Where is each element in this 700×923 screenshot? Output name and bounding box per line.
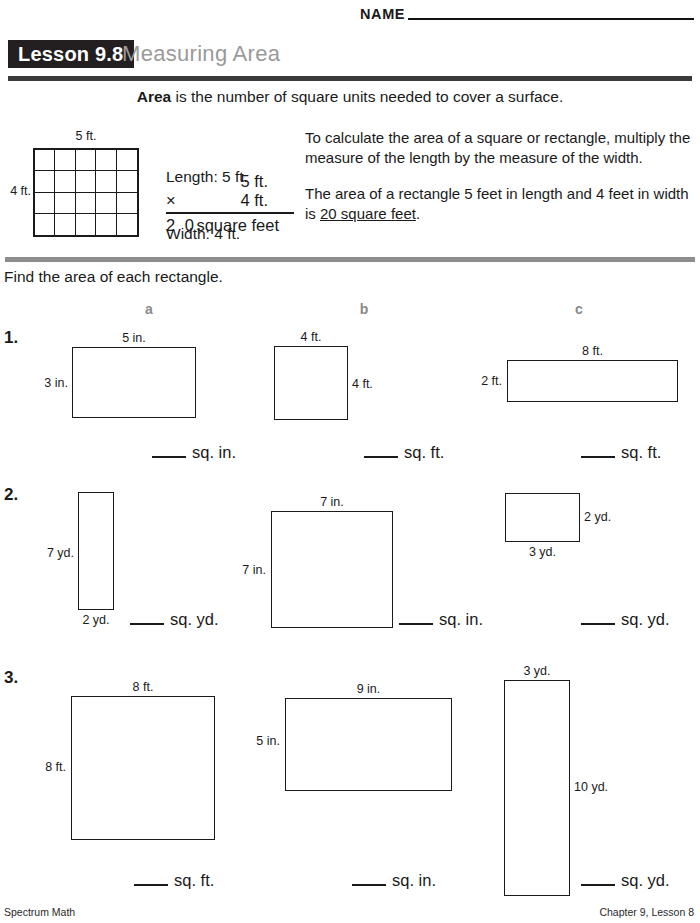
area-definition: Area is the number of square units neede… (0, 88, 700, 106)
answer-unit-3b: sq. in. (392, 871, 436, 890)
explanation-2-answer: 20 square feet (320, 205, 416, 222)
figure-2c-right-label: 2 yd. (584, 510, 642, 524)
problem-number-1: 1. (4, 328, 18, 348)
name-row: NAME (360, 2, 694, 22)
grid-cell (96, 214, 116, 235)
column-header-b: b (349, 301, 379, 317)
grid-cell (96, 193, 116, 214)
section-divider (5, 257, 695, 262)
figure-3c-right-label: 10 yd. (574, 780, 634, 794)
explanation-paragraph-2: The area of a rectangle 5 feet in length… (305, 184, 700, 223)
figure-2c-rectangle (505, 493, 580, 542)
product-number: 2 0 (166, 216, 196, 234)
title-divider (8, 76, 692, 81)
answer-1b: sq. ft. (364, 443, 444, 462)
grid-cell (55, 214, 75, 235)
figure-3a-rectangle (71, 696, 215, 840)
lesson-badge: Lesson 9.8 (8, 40, 134, 68)
product-row: 2 0square feet (166, 214, 294, 235)
column-header-c: c (564, 301, 594, 317)
answer-blank-2b[interactable] (399, 610, 433, 625)
answer-3b: sq. in. (352, 871, 436, 890)
answer-unit-2b: sq. in. (439, 610, 483, 629)
example-block: 5 ft. 4 ft. Length: 5 ft. Width: 4 ft. 5… (0, 126, 700, 246)
answer-1c: sq. ft. (581, 443, 661, 462)
figure-2a-rectangle (78, 492, 114, 610)
answer-blank-3c[interactable] (581, 871, 615, 886)
figure-2b-left-label: 7 in. (208, 563, 266, 577)
problem-number-3: 3. (4, 668, 18, 688)
answer-unit-1c: sq. ft. (621, 443, 661, 462)
figure-1a-rectangle (72, 347, 196, 418)
grid-cell (35, 214, 55, 235)
problem-number-2: 2. (4, 485, 18, 505)
answer-1a: sq. in. (152, 443, 236, 462)
example-multiplication: 5 ft. × 4 ft. 2 0square feet (166, 172, 294, 235)
footer-right: Chapter 9, Lesson 8 (599, 906, 694, 918)
name-label: NAME (360, 7, 405, 22)
answer-3c: sq. yd. (581, 871, 670, 890)
answer-unit-2a: sq. yd. (170, 610, 219, 629)
definition-term: Area (137, 88, 171, 105)
answer-blank-1b[interactable] (364, 443, 398, 458)
answer-2c: sq. yd. (581, 610, 670, 629)
grid-cell (35, 193, 55, 214)
definition-text: is the number of square units needed to … (171, 88, 563, 105)
explanation-2-post: . (416, 205, 420, 222)
grid-cell (117, 150, 137, 171)
figure-3c-rectangle (504, 680, 570, 896)
grid-cell (117, 214, 137, 235)
figure-3c-top-label: 3 yd. (504, 664, 570, 678)
figure-3b-left-label: 5 in. (222, 734, 280, 748)
figure-2a-left-label: 7 yd. (14, 546, 74, 560)
answer-blank-1c[interactable] (581, 443, 615, 458)
example-grid-left-label: 4 ft. (1, 184, 31, 198)
answer-unit-3a: sq. ft. (174, 871, 214, 890)
answer-blank-1a[interactable] (152, 443, 186, 458)
figure-3b-rectangle (285, 698, 452, 791)
name-write-line[interactable] (408, 18, 694, 20)
answer-unit-3c: sq. yd. (621, 871, 670, 890)
answer-blank-2c[interactable] (581, 610, 615, 625)
explanation-paragraph-1: To calculate the area of a square or rec… (305, 128, 700, 167)
figure-1a-top-label: 5 in. (72, 331, 196, 345)
example-explanation: To calculate the area of a square or rec… (305, 128, 700, 223)
answer-blank-3b[interactable] (352, 871, 386, 886)
example-unit-grid (33, 148, 139, 237)
figure-1a-left-label: 3 in. (10, 376, 68, 390)
figure-1b-right-label: 4 ft. (352, 377, 410, 391)
example-grid-top-label: 5 ft. (33, 129, 139, 143)
figure-1b-top-label: 4 ft. (274, 330, 348, 344)
answer-unit-2c: sq. yd. (621, 610, 670, 629)
grid-cell (76, 171, 96, 192)
multiplication-sign-icon: × (166, 191, 176, 210)
grid-cell (96, 171, 116, 192)
figure-1b-rectangle (274, 346, 348, 420)
multiplier: 4 ft. (240, 191, 268, 210)
grid-cell (55, 193, 75, 214)
answer-3a: sq. ft. (134, 871, 214, 890)
multiplicand: 5 ft. (166, 172, 294, 191)
grid-cell (35, 150, 55, 171)
answer-unit-1a: sq. in. (192, 443, 236, 462)
grid-cell (76, 193, 96, 214)
answer-blank-2a[interactable] (130, 610, 164, 625)
footer-left: Spectrum Math (4, 906, 75, 918)
answer-unit-1b: sq. ft. (404, 443, 444, 462)
directions-text: Find the area of each rectangle. (4, 268, 223, 286)
figure-2b-top-label: 7 in. (271, 495, 393, 509)
grid-cell (117, 171, 137, 192)
grid-cell (76, 214, 96, 235)
answer-2b: sq. in. (399, 610, 483, 629)
column-header-a: a (134, 301, 164, 317)
figure-1c-left-label: 2 ft. (444, 374, 502, 388)
figure-1c-top-label: 8 ft. (507, 344, 678, 358)
answer-blank-3a[interactable] (134, 871, 168, 886)
lesson-title: Measuring Area (122, 40, 280, 68)
figure-1c-rectangle (507, 360, 678, 402)
grid-cell (55, 150, 75, 171)
grid-cell (35, 171, 55, 192)
grid-cell (96, 150, 116, 171)
answer-2a: sq. yd. (130, 610, 219, 629)
figure-3a-left-label: 8 ft. (8, 760, 66, 774)
